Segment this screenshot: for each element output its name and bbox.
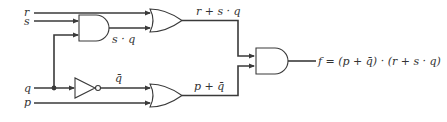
- junction-dot: [52, 86, 57, 91]
- label-r-plus-sq: r + s · q: [196, 5, 241, 18]
- and-gate-2: [256, 48, 288, 74]
- not-gate: [75, 78, 95, 98]
- wire-r-plus-sq: [182, 21, 254, 57]
- inverter-bubble: [96, 86, 101, 91]
- input-label-q: q: [24, 82, 31, 95]
- input-label-s: s: [24, 15, 30, 28]
- wire-q-branch: [54, 35, 78, 88]
- and-gate-1: [79, 15, 109, 41]
- logic-circuit-diagram: r s q p s · q r + s · q q̄ p + q̄ f = (p…: [0, 0, 447, 122]
- label-p-plus-qbar: p + q̄: [194, 80, 224, 93]
- label-qbar: q̄: [115, 72, 122, 85]
- label-sq: s · q: [112, 33, 135, 46]
- or-gate-1: [150, 9, 182, 32]
- label-f-output: f = (p + q̄) · (r + s · q): [317, 55, 441, 68]
- input-label-p: p: [24, 96, 31, 109]
- or-gate-2: [150, 84, 182, 107]
